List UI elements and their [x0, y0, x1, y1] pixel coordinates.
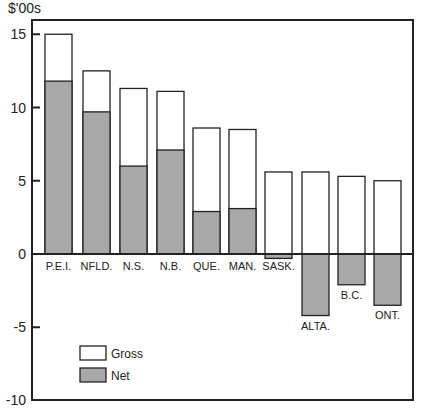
gross-bar: [265, 172, 292, 254]
net-bar: [302, 254, 329, 316]
legend-gross-swatch: [80, 346, 106, 360]
category-label: MAN.: [229, 260, 257, 272]
legend-net-label: Net: [111, 369, 130, 383]
y-tick-label: -5: [14, 319, 27, 335]
legend-gross-label: Gross: [111, 347, 143, 361]
category-label: P.E.I.: [46, 260, 71, 272]
category-label: N.S.: [123, 260, 144, 272]
net-bar: [157, 150, 184, 254]
y-tick-label: 10: [10, 100, 26, 116]
y-tick-label: 15: [10, 26, 26, 42]
net-bar: [193, 212, 220, 254]
y-tick-label: 5: [18, 173, 26, 189]
category-label: QUE.: [193, 260, 220, 272]
category-label: N.B.: [160, 260, 181, 272]
net-bar: [83, 112, 110, 254]
net-bar: [338, 254, 365, 285]
category-label: ALTA.: [301, 320, 330, 332]
category-label: B.C.: [341, 289, 362, 301]
bar-chart: -10-5051015P.E.I.NFLD.N.S.N.B.QUE.MAN.SA…: [0, 0, 427, 410]
category-label: SASK.: [262, 260, 294, 272]
y-tick-label: -10: [6, 392, 26, 408]
net-bar: [45, 81, 72, 254]
gross-bar: [374, 181, 401, 254]
gross-bar: [302, 172, 329, 254]
gross-bar: [338, 176, 365, 254]
legend-net-swatch: [80, 368, 106, 382]
net-bar: [120, 166, 147, 254]
net-bar: [229, 209, 256, 254]
y-tick-label: 0: [18, 246, 26, 262]
category-label: ONT.: [375, 309, 400, 321]
category-label: NFLD.: [81, 260, 113, 272]
net-bar: [374, 254, 401, 305]
